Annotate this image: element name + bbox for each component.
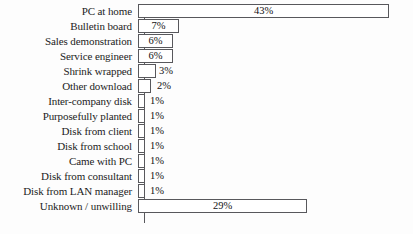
bar-segment	[138, 169, 145, 183]
bar-track: 1%	[138, 139, 413, 154]
category-label: Came with PC	[0, 154, 138, 169]
bar-track: 6%	[138, 34, 413, 49]
bar-row: Disk from client 1%	[0, 124, 413, 139]
bar-segment	[138, 199, 307, 213]
category-label: PC at home	[0, 4, 138, 19]
category-label: Bulletin board	[0, 19, 138, 34]
bar-row: Shrink wrapped 3%	[0, 64, 413, 79]
category-label: Shrink wrapped	[0, 64, 138, 79]
bar-row: Sales demonstration 6%	[0, 34, 413, 49]
bar-value-label: 1%	[150, 109, 164, 123]
bar-row: Disk from LAN manager 1%	[0, 184, 413, 199]
category-label: Unknown / unwilling	[0, 199, 138, 214]
chart-plot-area: PC at home 43% Bulletin board 7% Sales d…	[0, 4, 413, 214]
bar-segment	[138, 124, 145, 138]
bar-track: 1%	[138, 94, 413, 109]
category-label: Disk from school	[0, 139, 138, 154]
category-label: Other download	[0, 79, 138, 94]
bar-track: 1%	[138, 169, 413, 184]
bar-segment	[138, 109, 145, 123]
bar-value-label: 2%	[157, 79, 171, 93]
bar-row: Purposefully planted 1%	[0, 109, 413, 124]
bar-segment	[138, 79, 151, 93]
bar-segment	[138, 64, 156, 78]
bar-track: 1%	[138, 154, 413, 169]
bar-track: 7%	[138, 19, 413, 34]
bar-segment	[138, 19, 179, 33]
bar-value-label: 1%	[150, 94, 164, 108]
bar-row: Service engineer 6%	[0, 49, 413, 64]
bar-track: 6%	[138, 49, 413, 64]
category-label: Inter-company disk	[0, 94, 138, 109]
bar-segment	[138, 49, 173, 63]
bar-value-label: 1%	[150, 184, 164, 198]
bar-segment	[138, 154, 145, 168]
category-label: Purposefully planted	[0, 109, 138, 124]
category-label: Sales demonstration	[0, 34, 138, 49]
bar-row: Inter-company disk 1%	[0, 94, 413, 109]
bar-segment	[138, 94, 145, 108]
bar-row: PC at home 43%	[0, 4, 413, 19]
bar-track: 1%	[138, 184, 413, 199]
bar-value-label: 1%	[150, 139, 164, 153]
bar-track: 43%	[138, 4, 413, 19]
bar-value-label: 1%	[150, 124, 164, 138]
bar-segment	[138, 4, 389, 18]
bar-track: 2%	[138, 79, 413, 94]
bar-row: Bulletin board 7%	[0, 19, 413, 34]
bar-track: 1%	[138, 109, 413, 124]
category-label: Service engineer	[0, 49, 138, 64]
bar-value-label: 1%	[150, 169, 164, 183]
bar-row: Unknown / unwilling 29%	[0, 199, 413, 214]
bar-segment	[138, 139, 145, 153]
category-label: Disk from LAN manager	[0, 184, 138, 199]
bar-value-label: 3%	[159, 64, 173, 78]
category-label: Disk from consultant	[0, 169, 138, 184]
bar-row: Came with PC 1%	[0, 154, 413, 169]
bar-row: Disk from consultant 1%	[0, 169, 413, 184]
bar-track: 1%	[138, 124, 413, 139]
bar-segment	[138, 184, 145, 198]
bar-track: 3%	[138, 64, 413, 79]
bar-value-label: 1%	[150, 154, 164, 168]
category-label: Disk from client	[0, 124, 138, 139]
bar-segment	[138, 34, 173, 48]
bar-row: Disk from school 1%	[0, 139, 413, 154]
bar-row: Other download 2%	[0, 79, 413, 94]
bar-chart: PC at home 43% Bulletin board 7% Sales d…	[0, 0, 413, 234]
bar-track: 29%	[138, 199, 413, 214]
